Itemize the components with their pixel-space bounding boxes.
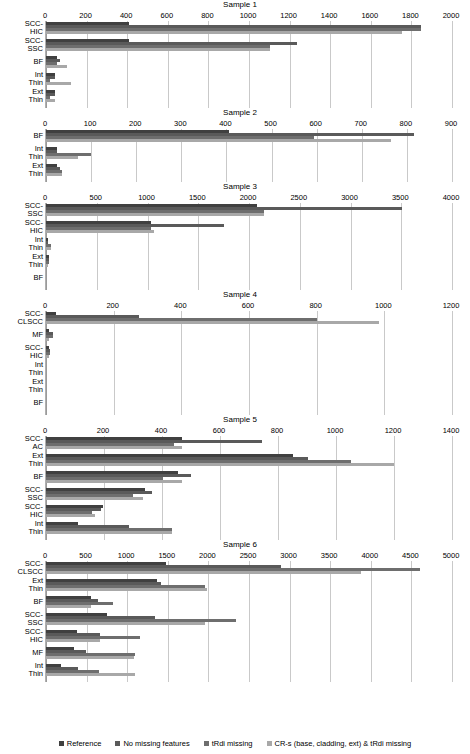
bar-group: MF [46,329,452,341]
bar-group: MF [46,647,452,659]
chart-panel-5: Sample 50200400600800100012001400SCC- AC… [0,415,470,540]
bar-group: Ext Thin [46,164,452,176]
x-tick-label: 1000 [327,425,344,436]
bar [46,497,143,500]
category-label: Ext Thin [0,253,43,269]
x-tick-label: 1200 [280,10,297,21]
bar [46,247,51,250]
plot-wrapper: 0500100015002000250030003500400045005000… [45,550,470,682]
x-tick-label: 2000 [199,550,216,561]
bar-group: Ext Thin [46,90,452,102]
category-label: SCC- HIC [0,219,43,235]
x-tick-label: 800 [309,300,322,311]
chart-title: Sample 4 [10,290,470,300]
category-label: Int Thin [0,662,43,678]
category-label: SCC- CLSCC [0,560,43,576]
bar [46,673,135,676]
bar-group: SCC- AC [46,437,452,449]
bar-group: Ext Thin [46,380,452,392]
x-tick-label: 400 [155,425,168,436]
bar [46,446,182,449]
plot-wrapper: 0200400600800100012001400160018002000SCC… [45,10,470,108]
category-label: Ext Thin [0,162,43,178]
x-tick-label: 200 [106,300,119,311]
x-tick-label: 800 [271,425,284,436]
category-label: SCC- CLSCC [0,310,43,326]
bar-group: Int Thin [46,147,452,159]
bar [46,531,172,534]
x-tick-label: 1000 [118,550,135,561]
bar [46,139,391,142]
bar [46,338,49,341]
x-tick-label: 0 [43,192,47,203]
category-label: Int Thin [0,145,43,161]
chart-title: Sample 5 [10,415,470,425]
legend-swatch-icon [59,741,64,746]
bar [46,571,361,574]
category-label: SCC- HIC [0,628,43,644]
bar-group: Int Thin [46,363,452,375]
chart-panel-1: Sample 102004006008001000120014001600180… [0,0,470,108]
chart-panel-stack: Sample 102004006008001000120014001600180… [0,0,470,682]
bar-group: SCC- SSC [46,39,452,51]
legend-label: CR-s (base, cladding, ext) & tRdi missin… [275,739,412,748]
bar-group: Int Thin [46,238,452,250]
plot-wrapper: 0200400600800100012001400SCC- ACExt Thin… [45,425,470,540]
legend-item: tRdi missing [204,739,253,748]
category-label: SCC- SSC [0,486,43,502]
category-label: Int Thin [0,236,43,252]
category-label: SCC- HIC [0,20,43,36]
bar [46,31,402,34]
x-tick-label: 0 [43,550,47,561]
x-axis-tick-labels: 020040060080010001200 [45,300,470,311]
bar-group: BF [46,471,452,483]
category-label: BF [0,598,43,606]
x-tick-label: 1400 [443,425,460,436]
bar-group: SCC- SSC [46,204,452,216]
x-tick-label: 600 [161,10,174,21]
plot-area: SCC- SSCSCC- HICInt ThinExt ThinBF [45,203,452,290]
legend-item: No missing features [115,739,189,748]
x-tick-label: 3000 [341,192,358,203]
bar [46,605,91,608]
bar-group: SCC- CLSCC [46,312,452,324]
gridline [452,311,453,415]
x-axis-tick-labels: 0200400600800100012001400160018002000 [45,10,470,21]
bar-group: SCC- HIC [46,505,452,517]
bar-group: BF [46,272,452,284]
bar [46,588,207,591]
x-tick-label: 1000 [240,10,257,21]
plot-wrapper: 05001000150020002500300035004000SCC- SSC… [45,192,470,290]
bar-group: BF [46,130,452,142]
bar-group: Int Thin [46,522,452,534]
x-tick-label: 600 [213,425,226,436]
x-tick-label: 200 [79,10,92,21]
category-label: Int Thin [0,71,43,87]
chart-legend: ReferenceNo missing featurestRdi missing… [0,739,470,748]
bar [46,264,48,267]
x-tick-label: 800 [400,118,413,129]
x-tick-label: 1000 [375,300,392,311]
x-tick-label: 100 [84,118,97,129]
plot-wrapper: 0100200300400500600700800900BFInt ThinEx… [45,118,470,182]
bar-group: SCC- HIC [46,22,452,34]
x-tick-label: 4000 [443,192,460,203]
category-label: BF [0,473,43,481]
category-label: SCC- HIC [0,503,43,519]
bar [46,480,182,483]
category-label: SCC- AC [0,435,43,451]
bar [46,463,394,466]
category-label: Int Thin [0,361,43,377]
x-tick-label: 500 [264,118,277,129]
bar-group: Int Thin [46,73,452,85]
legend-swatch-icon [267,741,272,746]
gridline [452,436,453,540]
bar [46,65,67,68]
chart-panel-4: Sample 4020040060080010001200SCC- CLSCCM… [0,290,470,415]
bar-group: SCC- HIC [46,630,452,642]
bar [46,230,154,233]
bar [46,355,49,358]
x-tick-label: 1400 [321,10,338,21]
bar [46,48,270,51]
bar-group: Ext Thin [46,454,452,466]
